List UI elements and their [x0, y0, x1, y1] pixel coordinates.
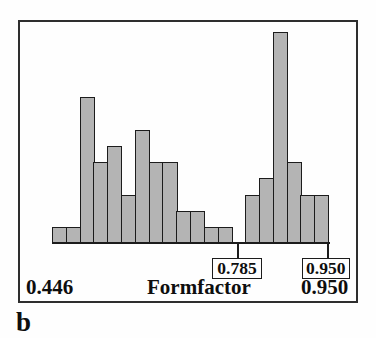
histogram-figure-panel-b: 0.785 0.950 0.446 Formfactor 0.950 b	[0, 0, 376, 338]
x-axis-title: Formfactor	[147, 277, 251, 298]
x-axis-max-label: 0.950	[301, 277, 348, 298]
callout-pointer-0950	[327, 244, 329, 259]
x-axis-min-label: 0.446	[26, 277, 73, 298]
callout-pointer-0785	[237, 244, 239, 259]
figure-label: b	[16, 309, 31, 336]
x-axis-baseline	[52, 242, 330, 244]
histogram-bar	[314, 195, 329, 244]
